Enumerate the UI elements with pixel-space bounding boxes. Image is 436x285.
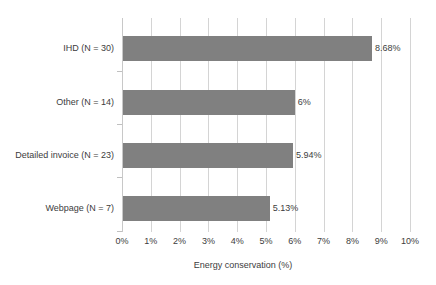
gridline-10 — [410, 18, 411, 232]
x-tick-8: 8% — [337, 237, 367, 246]
y-axis-label-ihd: IHD (N = 30) — [0, 44, 114, 53]
x-tick-10: 10% — [395, 237, 425, 246]
x-tick-3: 3% — [193, 237, 223, 246]
x-tick-9: 9% — [366, 237, 396, 246]
plot-area: 8.68% 6% 5.94% 5.13% — [122, 18, 410, 232]
x-tick-6: 6% — [280, 237, 310, 246]
y-axis-minor-tick-1 — [117, 71, 122, 72]
x-tick-4: 4% — [222, 237, 252, 246]
bar-webpage — [122, 196, 270, 221]
bar-other — [122, 90, 295, 115]
bar-value-other: 6% — [298, 98, 311, 107]
bar-value-ihd: 8.68% — [375, 44, 401, 53]
y-axis-minor-tick-3 — [117, 177, 122, 178]
y-axis-minor-tick-2 — [117, 124, 122, 125]
bar-chart: 8.68% 6% 5.94% 5.13% IHD (N = 30) Other … — [0, 0, 436, 285]
y-axis-line — [122, 18, 123, 232]
x-axis-title-text: Energy conservation (%) — [194, 261, 293, 270]
y-axis-label-detailed-invoice: Detailed invoice (N = 23) — [0, 151, 114, 160]
bar-ihd — [122, 36, 372, 61]
x-tick-1: 1% — [136, 237, 166, 246]
bar-detailed-invoice — [122, 143, 293, 168]
bar-value-webpage: 5.13% — [273, 204, 299, 213]
x-tick-5: 5% — [251, 237, 281, 246]
x-tick-2: 2% — [165, 237, 195, 246]
y-axis-label-other: Other (N = 14) — [0, 98, 114, 107]
x-tick-0: 0% — [107, 237, 137, 246]
x-axis-title: Energy conservation (%) — [0, 261, 436, 270]
bar-value-detailed-invoice: 5.94% — [296, 151, 322, 160]
y-axis-label-webpage: Webpage (N = 7) — [0, 204, 114, 213]
y-axis-minor-tick-4 — [117, 231, 122, 232]
x-tick-7: 7% — [309, 237, 339, 246]
